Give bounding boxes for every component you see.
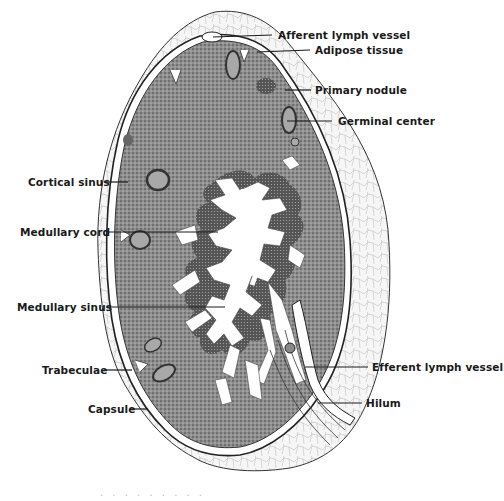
lymph-node-illustration [0, 0, 504, 501]
primary-nodule [256, 78, 276, 94]
label-medullary-cord: Medullary cord [20, 226, 110, 238]
germinal-center [147, 170, 169, 190]
germinal-center [291, 138, 299, 146]
label-primary-nodule: Primary nodule [315, 84, 407, 96]
germinal-center [282, 107, 296, 133]
label-cortical-sinus: Cortical sinus [28, 176, 110, 188]
label-germinal-center: Germinal center [338, 115, 435, 127]
germinal-center [123, 134, 133, 146]
label-adipose-tissue: Adipose tissue [315, 44, 403, 56]
vessel-cross-section [285, 343, 295, 353]
label-trabeculae: Trabeculae [42, 364, 107, 376]
label-hilum: Hilum [366, 397, 401, 409]
label-efferent-lymph-vessel: Efferent lymph vessel [372, 361, 503, 373]
germinal-center [130, 231, 150, 249]
label-afferent-lymph-vessel: Afferent lymph vessel [278, 29, 410, 41]
label-capsule: Capsule [88, 403, 135, 415]
figure-caption-cutoff: . . . . . . . . . [100, 487, 205, 498]
germinal-center [226, 51, 240, 79]
label-medullary-sinus: Medullary sinus [17, 301, 112, 313]
